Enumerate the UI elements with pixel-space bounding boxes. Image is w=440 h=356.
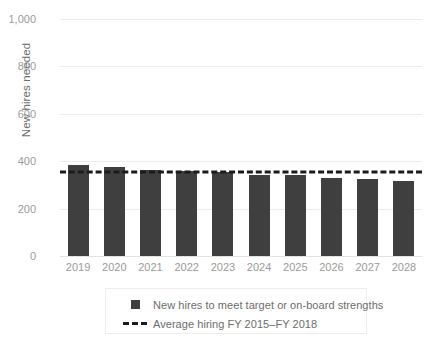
bar-2020[interactable] [104, 167, 125, 256]
gridline-0 [60, 256, 422, 257]
bar-2019[interactable] [68, 165, 89, 256]
bar-2026[interactable] [321, 178, 342, 256]
bar-2024[interactable] [249, 175, 270, 256]
bar-2027[interactable] [357, 179, 378, 256]
bar-2021[interactable] [140, 170, 161, 256]
legend-label-average: Average hiring FY 2015–FY 2018 [148, 318, 317, 330]
legend-item-bars: New hires to meet target or on-board str… [106, 297, 366, 312]
y-tick-label-1000: 1,000 [0, 14, 36, 25]
bar-2025[interactable] [285, 175, 306, 256]
plot-area: 02004006008001,000 [60, 19, 422, 256]
bar-2023[interactable] [212, 172, 233, 256]
y-axis-title: New hires needed [20, 20, 32, 160]
legend-item-average: Average hiring FY 2015–FY 2018 [106, 316, 366, 331]
y-tick-label-0: 0 [0, 251, 36, 262]
y-tick-label-400: 400 [0, 156, 36, 167]
bars-group [60, 19, 422, 256]
bar-2022[interactable] [176, 171, 197, 256]
x-tick-label-2028: 2028 [382, 261, 426, 273]
average-hiring-line [60, 171, 422, 174]
bar-2028[interactable] [393, 181, 414, 256]
legend-label-bars: New hires to meet target or on-board str… [148, 299, 383, 311]
legend-dashed-line-icon [122, 322, 148, 325]
legend-square-icon [122, 300, 148, 309]
chart-legend: New hires to meet target or on-board str… [105, 288, 367, 334]
y-tick-label-200: 200 [0, 203, 36, 214]
y-tick-label-600: 600 [0, 108, 36, 119]
y-tick-label-800: 800 [0, 61, 36, 72]
x-axis-tick-labels: 2019202020212022202320242025202620272028 [60, 261, 422, 277]
bar-chart: New hires needed 02004006008001,000 2019… [0, 0, 440, 356]
